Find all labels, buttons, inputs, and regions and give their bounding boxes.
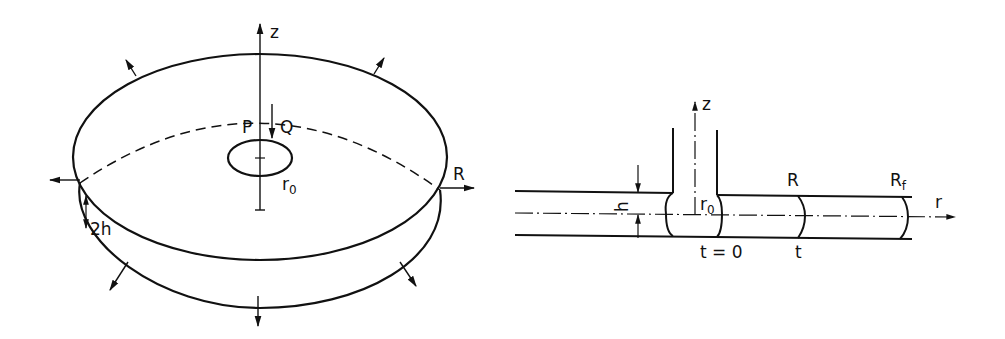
radial-arrow-top-left xyxy=(126,60,136,76)
front-t xyxy=(798,196,805,238)
flow-rate-label: Q xyxy=(280,117,293,137)
time-zero-label: t = 0 xyxy=(700,242,743,262)
radial-flow-diagram: z P Q r0 R 2h z h r0 R R xyxy=(0,0,1005,339)
inlet-radius-label-right: r0 xyxy=(700,194,715,217)
radial-arrow-bottom-right xyxy=(400,262,416,286)
half-gap-label: h xyxy=(612,201,632,212)
top-plate-right xyxy=(717,195,912,197)
radial-arrow-top-right xyxy=(374,58,384,74)
radial-arrow-bottom-left xyxy=(110,262,128,290)
radius-label: R xyxy=(453,164,465,184)
final-radius-label: Rf xyxy=(890,170,907,193)
front-radius-label: R xyxy=(787,170,799,190)
front-rf xyxy=(900,197,908,239)
r-axis xyxy=(515,213,955,217)
time-label: t xyxy=(795,242,802,262)
gap-label: 2h xyxy=(90,219,112,239)
z-axis-label-right: z xyxy=(702,94,711,114)
inlet-radius-label: r0 xyxy=(282,174,297,197)
pressure-label: P xyxy=(242,117,252,137)
left-panel-disk xyxy=(50,24,474,326)
top-plate-left xyxy=(515,191,673,193)
bottom-plate xyxy=(515,235,912,239)
z-axis-label: z xyxy=(270,22,279,42)
right-panel-section xyxy=(515,102,955,239)
r-axis-label: r xyxy=(935,192,942,212)
